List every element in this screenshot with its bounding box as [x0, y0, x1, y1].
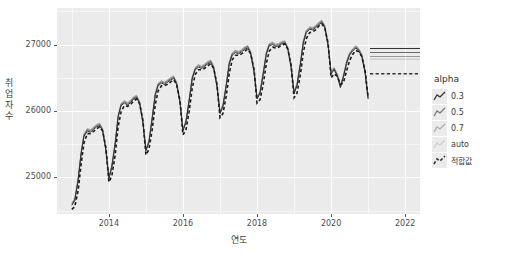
- chart-root: 취업자 수 연도 250002600027000 201420162018202…: [0, 0, 508, 256]
- x-axis-tick-label: 2022: [385, 219, 425, 228]
- y-axis-label: 취업자 수: [2, 78, 16, 122]
- legend-item-적합값[interactable]: 적합값: [432, 152, 506, 168]
- y-axis-tick-label: 27000: [26, 40, 51, 49]
- legend-item-label: 0.3: [451, 92, 464, 101]
- y-axis-tick-label: 26000: [26, 106, 51, 115]
- legend-item-0.5[interactable]: 0.5: [432, 104, 506, 120]
- x-axis-tick-mark: [331, 214, 332, 217]
- legend-item-label: 적합값: [451, 155, 472, 166]
- legend-key-icon: [432, 137, 447, 152]
- legend-key-icon: [432, 105, 447, 120]
- legend-key-icon: [432, 89, 447, 104]
- plot-panel: [57, 8, 420, 214]
- legend-item-0.3[interactable]: 0.3: [432, 88, 506, 104]
- x-axis-tick-label: 2016: [163, 219, 203, 228]
- legend: alpha 0.30.50.7auto적합값: [432, 74, 506, 168]
- legend-items: 0.30.50.7auto적합값: [432, 88, 506, 168]
- series-line-0.3: [72, 23, 368, 206]
- y-axis-tick-label: 25000: [26, 172, 51, 181]
- x-axis-tick-mark: [109, 214, 110, 217]
- x-axis-tick-mark: [405, 214, 406, 217]
- x-axis-label: 연도: [57, 233, 420, 246]
- legend-item-label: 0.5: [451, 108, 464, 117]
- chart-title: [57, 0, 422, 3]
- data-series-layer: [57, 8, 420, 214]
- legend-item-auto[interactable]: auto: [432, 136, 506, 152]
- x-axis-tick-mark: [257, 214, 258, 217]
- x-axis-tick-label: 2014: [89, 219, 129, 228]
- legend-item-label: 0.7: [451, 124, 464, 133]
- legend-title: alpha: [434, 74, 506, 84]
- legend-item-0.7[interactable]: 0.7: [432, 120, 506, 136]
- x-axis-tick-label: 2020: [311, 219, 351, 228]
- legend-key-icon: [432, 153, 447, 168]
- legend-item-label: auto: [451, 140, 469, 149]
- legend-key-icon: [432, 121, 447, 136]
- series-line-fitted: [72, 24, 368, 209]
- x-axis-tick-mark: [183, 214, 184, 217]
- x-axis-tick-label: 2018: [237, 219, 277, 228]
